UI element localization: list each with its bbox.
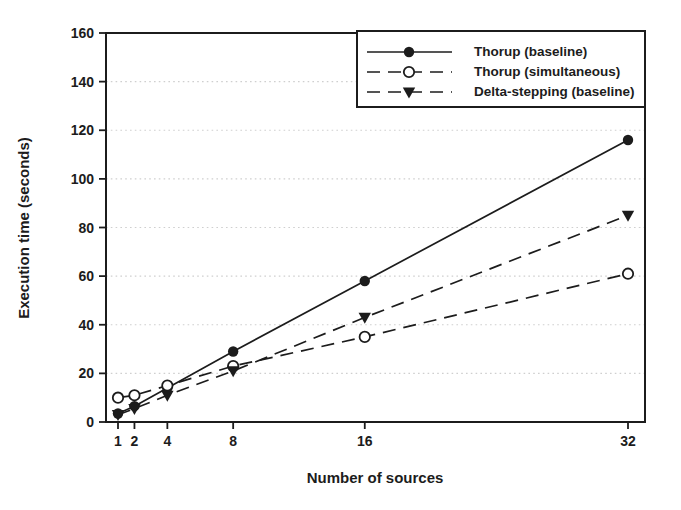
legend: Thorup (baseline) Thorup (simultaneous) …	[356, 30, 646, 108]
legend-item-thorup-baseline: Thorup (baseline)	[367, 42, 644, 62]
y-tick-label: 120	[71, 122, 95, 138]
y-tick-label: 40	[78, 317, 94, 333]
y-axis: 020406080100120140160	[71, 25, 106, 430]
legend-line-sample-filled-triangle	[367, 82, 452, 102]
x-tick-label: 8	[229, 433, 237, 449]
legend-label: Delta-stepping (baseline)	[474, 82, 635, 102]
y-tick-label: 0	[86, 414, 94, 430]
x-axis-title: Number of sources	[307, 469, 444, 486]
y-tick-label: 80	[78, 220, 94, 236]
y-axis-title: Execution time (seconds)	[15, 137, 32, 319]
gridlines	[106, 82, 645, 374]
y-tick-label: 140	[71, 74, 95, 90]
x-tick-label: 1	[114, 433, 122, 449]
x-tick-label: 2	[131, 433, 139, 449]
legend-item-delta-stepping-baseline: Delta-stepping (baseline)	[367, 82, 644, 102]
figure: 02040608010012014016012481632 Execution …	[0, 0, 681, 510]
y-tick-label: 60	[78, 268, 94, 284]
legend-item-thorup-simultaneous: Thorup (simultaneous)	[367, 62, 644, 82]
x-tick-label: 4	[163, 433, 171, 449]
legend-line-sample-open-circle	[367, 62, 452, 82]
x-tick-label: 32	[620, 433, 636, 449]
x-tick-label: 16	[357, 433, 373, 449]
legend-label: Thorup (baseline)	[474, 42, 587, 62]
series-0-thorup-baseline-	[113, 135, 633, 419]
legend-line-sample-filled-circle	[367, 42, 452, 62]
y-tick-label: 100	[71, 171, 95, 187]
series-2-delta-stepping-baseline-	[112, 211, 634, 421]
y-tick-label: 20	[78, 365, 94, 381]
legend-label: Thorup (simultaneous)	[474, 62, 620, 82]
series-1-thorup-simultaneous-	[113, 268, 633, 402]
x-axis: 12481632	[114, 422, 636, 449]
y-tick-label: 160	[71, 25, 95, 41]
